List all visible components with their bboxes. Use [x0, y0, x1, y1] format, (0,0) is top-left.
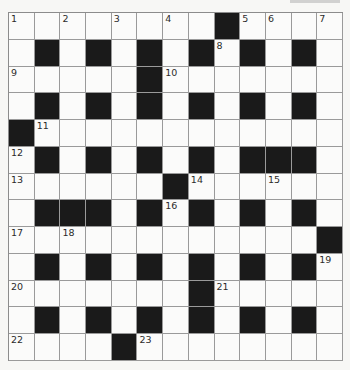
grid-cell[interactable] — [266, 93, 292, 120]
grid-cell[interactable] — [240, 334, 266, 361]
grid-cell[interactable] — [9, 254, 35, 281]
grid-cell[interactable] — [215, 307, 241, 334]
grid-cell[interactable]: 12 — [9, 147, 35, 174]
grid-cell[interactable] — [215, 227, 241, 254]
grid-cell[interactable] — [112, 147, 138, 174]
grid-cell[interactable] — [60, 334, 86, 361]
grid-cell[interactable]: 7 — [317, 13, 343, 40]
grid-cell[interactable] — [86, 67, 112, 94]
grid-cell[interactable]: 16 — [163, 200, 189, 227]
grid-cell[interactable] — [189, 334, 215, 361]
grid-cell[interactable] — [9, 307, 35, 334]
grid-cell[interactable] — [163, 147, 189, 174]
grid-cell[interactable] — [163, 254, 189, 281]
grid-cell[interactable]: 21 — [215, 281, 241, 308]
grid-cell[interactable] — [317, 281, 343, 308]
grid-cell[interactable] — [112, 200, 138, 227]
grid-cell[interactable] — [137, 227, 163, 254]
grid-cell[interactable] — [35, 13, 61, 40]
grid-cell[interactable] — [163, 307, 189, 334]
grid-cell[interactable] — [189, 120, 215, 147]
grid-cell[interactable] — [163, 120, 189, 147]
grid-cell[interactable] — [35, 67, 61, 94]
grid-cell[interactable]: 1 — [9, 13, 35, 40]
grid-cell[interactable] — [86, 13, 112, 40]
grid-cell[interactable] — [112, 67, 138, 94]
grid-cell[interactable] — [86, 174, 112, 201]
grid-cell[interactable] — [189, 227, 215, 254]
grid-cell[interactable] — [215, 120, 241, 147]
grid-cell[interactable]: 13 — [9, 174, 35, 201]
grid-cell[interactable] — [60, 120, 86, 147]
grid-cell[interactable] — [215, 200, 241, 227]
grid-cell[interactable]: 10 — [163, 67, 189, 94]
grid-cell[interactable] — [292, 281, 318, 308]
grid-cell[interactable]: 11 — [35, 120, 61, 147]
grid-cell[interactable] — [60, 281, 86, 308]
grid-cell[interactable] — [163, 334, 189, 361]
grid-cell[interactable] — [292, 13, 318, 40]
grid-cell[interactable] — [112, 40, 138, 67]
grid-cell[interactable] — [215, 174, 241, 201]
grid-cell[interactable]: 6 — [266, 13, 292, 40]
grid-cell[interactable] — [112, 307, 138, 334]
grid-cell[interactable] — [112, 174, 138, 201]
grid-cell[interactable] — [163, 40, 189, 67]
grid-cell[interactable] — [9, 40, 35, 67]
grid-cell[interactable] — [292, 174, 318, 201]
grid-cell[interactable] — [86, 120, 112, 147]
grid-cell[interactable] — [266, 40, 292, 67]
grid-cell[interactable]: 2 — [60, 13, 86, 40]
grid-cell[interactable]: 22 — [9, 334, 35, 361]
grid-cell[interactable] — [9, 200, 35, 227]
grid-cell[interactable] — [266, 254, 292, 281]
grid-cell[interactable] — [112, 93, 138, 120]
grid-cell[interactable]: 5 — [240, 13, 266, 40]
grid-cell[interactable] — [317, 174, 343, 201]
grid-cell[interactable] — [60, 40, 86, 67]
grid-cell[interactable] — [240, 120, 266, 147]
grid-cell[interactable] — [137, 174, 163, 201]
grid-cell[interactable] — [189, 67, 215, 94]
grid-cell[interactable] — [215, 334, 241, 361]
grid-cell[interactable] — [35, 227, 61, 254]
grid-cell[interactable] — [215, 67, 241, 94]
grid-cell[interactable] — [292, 67, 318, 94]
grid-cell[interactable]: 23 — [137, 334, 163, 361]
grid-cell[interactable] — [266, 281, 292, 308]
grid-cell[interactable] — [60, 307, 86, 334]
grid-cell[interactable] — [137, 13, 163, 40]
grid-cell[interactable] — [112, 281, 138, 308]
grid-cell[interactable] — [317, 120, 343, 147]
grid-cell[interactable]: 14 — [189, 174, 215, 201]
grid-cell[interactable] — [60, 67, 86, 94]
grid-cell[interactable] — [86, 227, 112, 254]
grid-cell[interactable] — [240, 67, 266, 94]
grid-cell[interactable] — [317, 147, 343, 174]
grid-cell[interactable] — [266, 120, 292, 147]
grid-cell[interactable] — [292, 227, 318, 254]
grid-cell[interactable]: 9 — [9, 67, 35, 94]
grid-cell[interactable] — [137, 120, 163, 147]
grid-cell[interactable]: 15 — [266, 174, 292, 201]
grid-cell[interactable] — [215, 254, 241, 281]
grid-cell[interactable] — [240, 227, 266, 254]
grid-cell[interactable]: 19 — [317, 254, 343, 281]
grid-cell[interactable] — [35, 281, 61, 308]
grid-cell[interactable] — [317, 40, 343, 67]
grid-cell[interactable] — [60, 93, 86, 120]
grid-cell[interactable] — [266, 227, 292, 254]
grid-cell[interactable] — [60, 147, 86, 174]
grid-cell[interactable] — [112, 227, 138, 254]
grid-cell[interactable] — [163, 227, 189, 254]
grid-cell[interactable] — [9, 93, 35, 120]
grid-cell[interactable] — [163, 93, 189, 120]
grid-cell[interactable] — [240, 174, 266, 201]
grid-cell[interactable] — [240, 281, 266, 308]
grid-cell[interactable] — [317, 200, 343, 227]
grid-cell[interactable] — [266, 200, 292, 227]
grid-cell[interactable] — [112, 254, 138, 281]
grid-cell[interactable] — [317, 93, 343, 120]
grid-cell[interactable] — [215, 147, 241, 174]
grid-cell[interactable]: 8 — [215, 40, 241, 67]
